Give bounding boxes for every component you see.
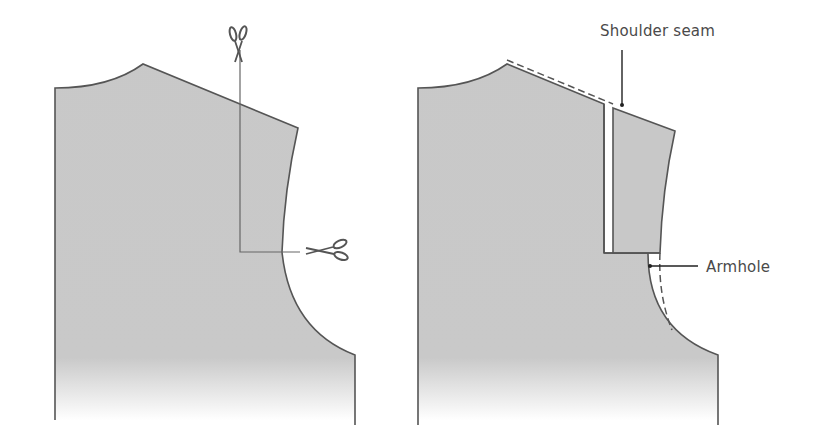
shifted-shoulder-piece [613,108,675,253]
left-pattern-piece [55,50,355,425]
shoulder-seam-label: Shoulder seam [600,22,715,40]
right-pattern-piece [418,50,718,425]
scissors-icon-vertical [228,25,248,62]
pattern-diagram [0,0,820,447]
armhole-label: Armhole [706,258,770,276]
scissors-icon-horizontal [306,238,349,262]
